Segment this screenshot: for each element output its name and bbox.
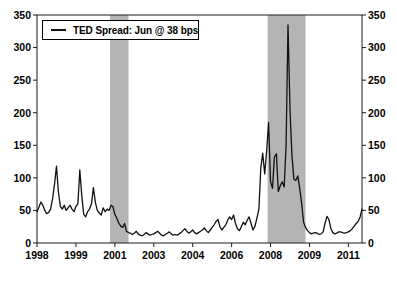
ted-spread-chart: 0050501001001501502002002502503003003503… — [0, 0, 397, 282]
x-axis-label: 2011 — [337, 249, 360, 261]
plot-frame — [37, 15, 362, 243]
recession-band — [110, 15, 129, 243]
y-axis-label-right: 250 — [368, 74, 386, 86]
y-axis-label-left: 0 — [25, 237, 31, 249]
x-axis-label: 2008 — [259, 249, 283, 261]
y-axis-label-left: 300 — [13, 41, 31, 53]
y-axis-label-right: 300 — [368, 41, 386, 53]
y-axis-label-left: 350 — [13, 9, 31, 21]
x-axis-label: 2003 — [142, 249, 166, 261]
y-axis-label-left: 150 — [13, 139, 31, 151]
legend-line-swatch — [51, 29, 66, 31]
y-axis-label-right: 150 — [368, 139, 386, 151]
x-axis-label: 2001 — [103, 249, 127, 261]
x-axis-label: 2004 — [181, 249, 205, 261]
legend-label: TED Spread: Jun @ 38 bps — [73, 25, 198, 36]
chart-legend: TED Spread: Jun @ 38 bps — [42, 20, 199, 40]
y-axis-label-right: 50 — [368, 204, 380, 216]
y-axis-label-right: 100 — [368, 172, 386, 184]
y-axis-label-left: 50 — [19, 204, 31, 216]
y-axis-label-right: 0 — [368, 237, 374, 249]
x-axis-label: 2009 — [298, 249, 322, 261]
y-axis-label-left: 250 — [13, 74, 31, 86]
x-axis-label: 1999 — [64, 249, 88, 261]
y-axis-label-right: 350 — [368, 9, 386, 21]
y-axis-label-left: 200 — [13, 107, 31, 119]
y-axis-label-left: 100 — [13, 172, 31, 184]
x-axis-label: 2006 — [220, 249, 244, 261]
x-axis-label: 1998 — [25, 249, 49, 261]
ted-spread-line — [37, 25, 362, 236]
chart-container: 0050501001001501502002002502503003003503… — [0, 0, 397, 282]
y-axis-label-right: 200 — [368, 107, 386, 119]
